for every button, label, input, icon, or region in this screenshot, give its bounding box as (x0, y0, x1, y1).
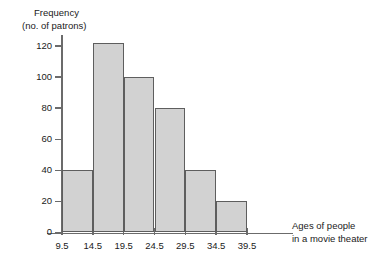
y-tick-label: 0 (47, 227, 52, 237)
histogram-bar (185, 170, 216, 232)
histogram-figure: Frequency (no. of patrons) Ages of peopl… (0, 0, 389, 265)
y-tick-label: 100 (36, 72, 52, 82)
y-tick-mark (55, 76, 62, 77)
histogram-bar (155, 108, 186, 232)
y-tick-label: 80 (41, 103, 52, 113)
plot-area: 020406080100120 9.514.519.524.529.534.53… (0, 0, 389, 265)
y-tick-mark (55, 201, 62, 202)
histogram-bar (124, 77, 155, 232)
y-tick-mark (55, 45, 62, 46)
x-tick-label: 39.5 (227, 240, 267, 251)
y-tick-mark (55, 139, 62, 140)
y-tick-mark (55, 170, 62, 171)
y-tick-mark (55, 107, 62, 108)
histogram-bar (93, 43, 124, 233)
y-tick-label: 20 (41, 196, 52, 206)
x-axis-line (47, 233, 293, 235)
y-tick-label: 60 (41, 134, 52, 144)
y-tick-label: 120 (36, 41, 52, 51)
y-tick-label: 40 (41, 165, 52, 175)
histogram-bar (216, 201, 247, 232)
histogram-bar (62, 170, 93, 232)
